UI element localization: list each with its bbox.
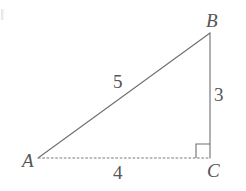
side-label-vertical: 3 xyxy=(214,85,224,104)
vertex-label-c: C xyxy=(207,161,220,180)
side-label-hypotenuse: 5 xyxy=(113,72,123,91)
side-label-base: 4 xyxy=(113,163,123,182)
right-angle-marker xyxy=(196,144,210,158)
vertex-label-a: A xyxy=(22,151,34,170)
triangle-figure: B A C 5 3 4 xyxy=(0,0,246,191)
vertex-label-b: B xyxy=(206,11,218,30)
side-ab-hypotenuse xyxy=(38,33,210,158)
